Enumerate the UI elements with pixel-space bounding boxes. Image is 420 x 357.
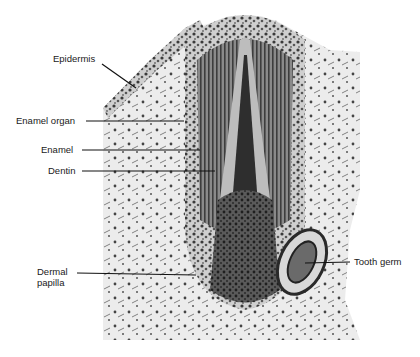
label-tooth-germ: Tooth germ <box>354 256 402 267</box>
leader-epidermis <box>102 64 136 88</box>
label-epidermis: Epidermis <box>53 53 95 64</box>
label-enamel: Enamel <box>41 144 73 155</box>
label-enamel-organ: Enamel organ <box>16 115 75 126</box>
label-dermal-papilla: Dermal papilla <box>37 266 77 288</box>
dermal-papilla-region <box>210 190 280 303</box>
label-dentin: Dentin <box>48 165 75 176</box>
